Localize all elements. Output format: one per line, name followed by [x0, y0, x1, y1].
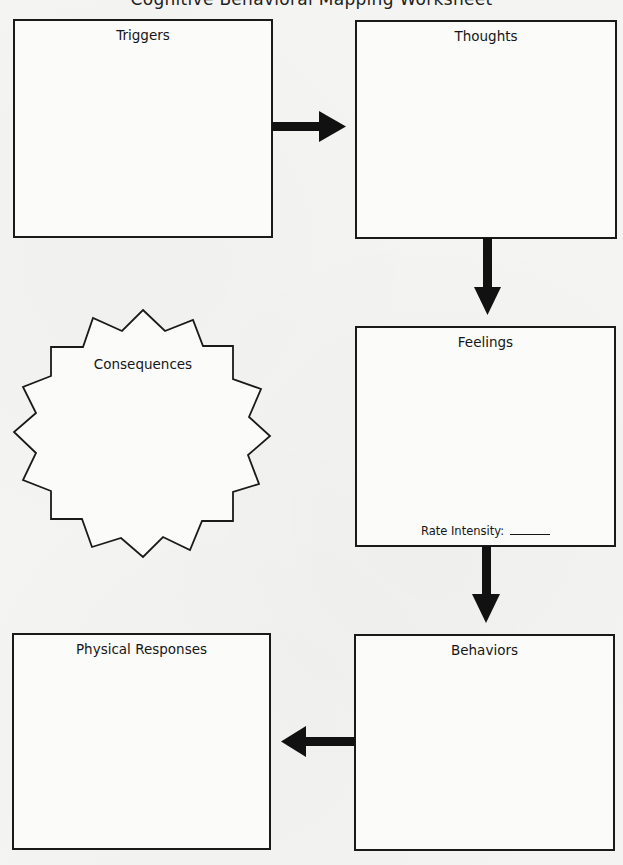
arrow-down-icon	[472, 546, 500, 623]
diagram-overlay	[0, 0, 623, 865]
arrow-right-icon	[272, 111, 346, 142]
consequences-starburst[interactable]	[14, 310, 270, 557]
consequences-label: Consequences	[60, 356, 226, 372]
arrow-down-icon	[474, 238, 501, 315]
arrow-left-icon	[281, 726, 355, 757]
